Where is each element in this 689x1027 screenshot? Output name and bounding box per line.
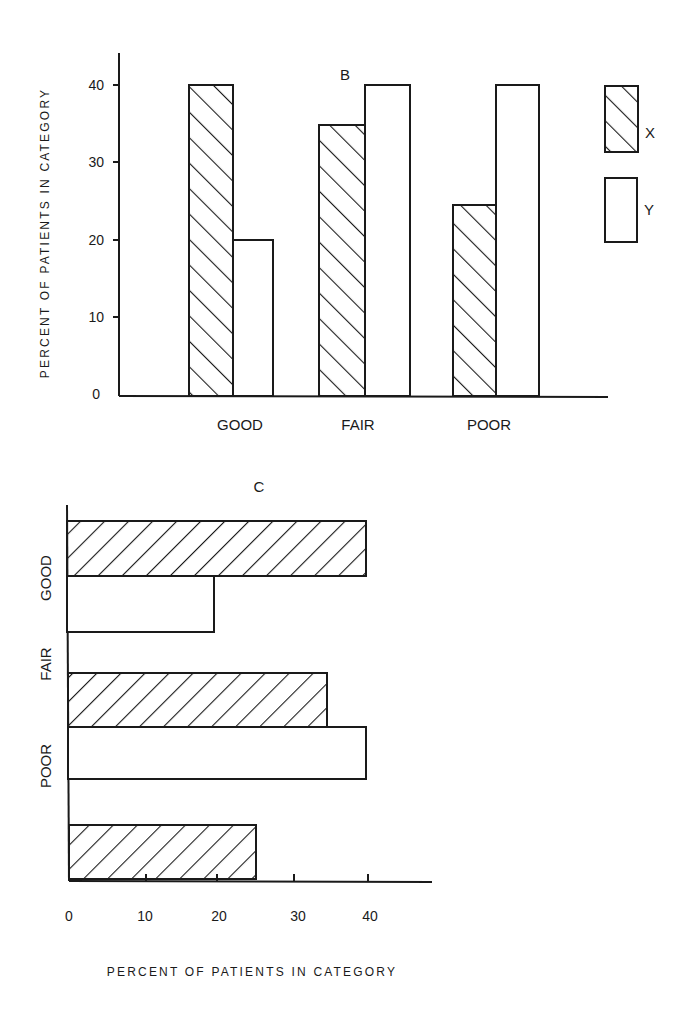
bar-c-fair-x bbox=[68, 673, 327, 727]
tick-label: 20 bbox=[88, 232, 104, 248]
bar-b-fair-y bbox=[365, 85, 410, 396]
category-label-good: GOOD bbox=[37, 555, 54, 601]
chart-b-y-tick-labels: 40 30 20 10 0 bbox=[88, 77, 104, 402]
chart-b-category-labels: GOOD FAIR POOR bbox=[217, 416, 511, 433]
bar-b-poor-y bbox=[496, 85, 539, 396]
chart-c-x-tick-labels: 0 10 20 30 40 bbox=[65, 908, 378, 924]
chart-c-x-axis bbox=[69, 881, 432, 882]
tick-label: 30 bbox=[290, 908, 306, 924]
bar-b-fair-x bbox=[319, 125, 365, 396]
bar-c-good-y bbox=[67, 576, 214, 632]
chart-b-legend: X Y bbox=[605, 86, 655, 242]
tick-label: 10 bbox=[88, 309, 104, 325]
category-label-fair: FAIR bbox=[341, 416, 375, 433]
legend-swatch-y bbox=[605, 178, 637, 242]
chart-b-y-axis-label: PERCENT OF PATIENTS IN CATEGORY bbox=[38, 88, 52, 378]
chart-b-title: B bbox=[340, 66, 350, 83]
category-label-poor: POOR bbox=[467, 416, 511, 433]
chart-c-category-labels: GOOD FAIR POOR bbox=[37, 555, 54, 788]
tick-label: 30 bbox=[88, 154, 104, 170]
category-label-fair: FAIR bbox=[37, 647, 54, 681]
chart-c: C 0 10 20 30 40 PERCENT OF PATIENTS IN C… bbox=[37, 478, 432, 979]
legend-label-x: X bbox=[645, 124, 655, 141]
tick-label: 0 bbox=[65, 908, 73, 924]
tick-label: 40 bbox=[88, 77, 104, 93]
bar-b-good-y bbox=[233, 240, 273, 396]
tick-label: 20 bbox=[211, 908, 227, 924]
bar-c-poor-x bbox=[69, 825, 256, 879]
bar-c-fair-y bbox=[68, 727, 366, 779]
legend-label-y: Y bbox=[644, 201, 654, 218]
chart-c-x-axis-label: PERCENT OF PATIENTS IN CATEGORY bbox=[107, 965, 397, 979]
legend-swatch-x bbox=[605, 86, 638, 152]
bar-c-good-x bbox=[67, 521, 366, 576]
tick-label: 0 bbox=[92, 386, 100, 402]
chart-b: B PERCENT OF PATIENTS IN CATEGORY 40 30 … bbox=[38, 53, 655, 433]
bar-b-good-x bbox=[189, 85, 233, 396]
tick-label: 10 bbox=[137, 908, 153, 924]
figure: B PERCENT OF PATIENTS IN CATEGORY 40 30 … bbox=[0, 0, 689, 1027]
tick-label: 40 bbox=[362, 908, 378, 924]
chart-c-title: C bbox=[254, 478, 265, 495]
bar-b-poor-x bbox=[453, 205, 496, 396]
category-label-good: GOOD bbox=[217, 416, 263, 433]
category-label-poor: POOR bbox=[37, 744, 54, 788]
